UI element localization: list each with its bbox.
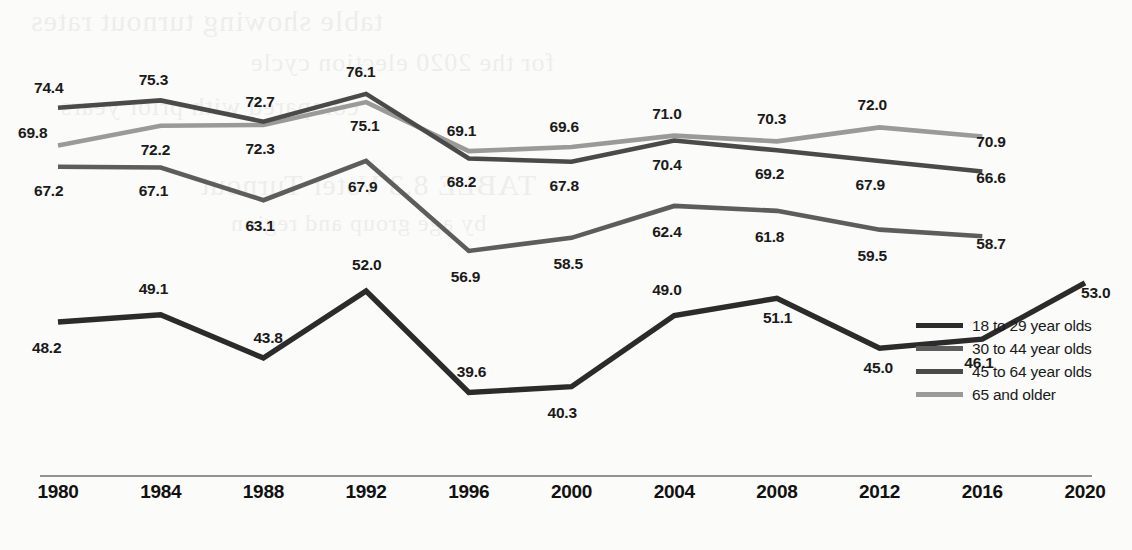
data-point-label: 74.4 — [34, 79, 63, 97]
data-point-label: 75.3 — [139, 71, 168, 89]
x-axis-tick-2000: 2000 — [537, 481, 607, 503]
series-line-2 — [58, 161, 982, 251]
data-point-label: 72.3 — [245, 140, 274, 158]
data-point-label: 66.6 — [976, 169, 1005, 187]
data-point-label: 61.8 — [755, 228, 784, 246]
data-point-label: 67.1 — [139, 182, 168, 200]
x-axis-tick-2016: 2016 — [947, 481, 1017, 503]
legend-line-swatch-icon — [916, 346, 963, 351]
data-point-label: 67.9 — [856, 176, 885, 194]
data-point-label: 69.8 — [18, 124, 47, 142]
data-point-label: 52.0 — [352, 256, 381, 274]
data-point-label: 62.4 — [652, 223, 681, 241]
x-axis-tick-2012: 2012 — [845, 481, 915, 503]
data-point-label: 49.0 — [652, 281, 681, 299]
data-point-label: 72.7 — [245, 93, 274, 111]
x-axis-tick-1996: 1996 — [434, 481, 504, 503]
data-point-label: 63.1 — [245, 217, 274, 235]
data-point-label: 67.8 — [550, 177, 579, 195]
data-point-label: 56.9 — [451, 268, 480, 286]
data-point-label: 69.6 — [550, 118, 579, 136]
x-axis-tick-2020: 2020 — [1050, 481, 1120, 503]
data-point-label: 67.9 — [348, 178, 377, 196]
data-point-label: 67.2 — [34, 182, 63, 200]
data-point-label: 58.7 — [976, 235, 1005, 253]
legend-item-1[interactable]: 18 to 29 year olds — [916, 314, 1126, 337]
data-point-label: 43.8 — [253, 329, 282, 347]
data-point-label: 70.4 — [652, 156, 681, 174]
legend-line-swatch-icon — [916, 369, 963, 374]
data-point-label: 58.5 — [554, 255, 583, 273]
data-point-label: 71.0 — [652, 105, 681, 123]
data-point-label: 49.1 — [139, 280, 168, 298]
data-point-label: 59.5 — [858, 247, 887, 265]
data-point-label: 76.1 — [346, 63, 375, 81]
legend-item-4[interactable]: 65 and older — [916, 383, 1126, 406]
x-axis-tick-1992: 1992 — [331, 481, 401, 503]
data-point-label: 69.1 — [447, 122, 476, 140]
data-point-label: 45.0 — [864, 359, 893, 377]
x-axis-tick-2004: 2004 — [639, 481, 709, 503]
legend-item-3[interactable]: 45 to 64 year olds — [916, 360, 1126, 383]
x-axis-tick-2008: 2008 — [742, 481, 812, 503]
x-axis-tick-1980: 1980 — [23, 481, 93, 503]
data-point-label: 39.6 — [457, 363, 486, 381]
data-point-label: 72.2 — [141, 141, 170, 159]
data-point-label: 51.1 — [763, 309, 792, 327]
data-point-label: 53.0 — [1081, 284, 1110, 302]
chart-legend: 18 to 29 year olds30 to 44 year olds45 t… — [916, 314, 1126, 406]
legend-item-label: 45 to 64 year olds — [972, 363, 1092, 381]
legend-item-label: 18 to 29 year olds — [972, 317, 1092, 335]
chart-page: table showing turnout ratesfor the 2020 … — [0, 0, 1132, 550]
legend-item-label: 30 to 44 year olds — [972, 340, 1092, 358]
legend-line-swatch-icon — [916, 323, 963, 328]
data-point-label: 69.2 — [755, 165, 784, 183]
data-point-label: 68.2 — [447, 173, 476, 191]
data-point-label: 48.2 — [32, 339, 61, 357]
legend-item-2[interactable]: 30 to 44 year olds — [916, 337, 1126, 360]
line-chart-canvas — [0, 0, 1132, 550]
data-point-label: 72.0 — [858, 96, 887, 114]
data-point-label: 70.3 — [757, 110, 786, 128]
data-point-label: 70.9 — [976, 133, 1005, 151]
legend-item-label: 65 and older — [972, 386, 1056, 404]
x-axis-tick-1988: 1988 — [228, 481, 298, 503]
data-point-label: 40.3 — [548, 404, 577, 422]
x-axis-tick-1984: 1984 — [126, 481, 196, 503]
data-point-label: 75.1 — [350, 117, 379, 135]
legend-line-swatch-icon — [916, 392, 963, 397]
